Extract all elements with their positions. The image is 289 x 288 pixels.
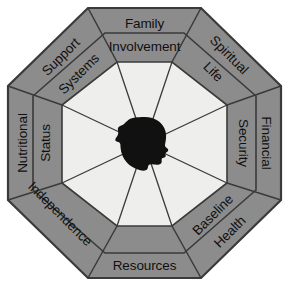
octagon-graphic <box>0 0 289 288</box>
octagon-diagram: Family Involvement Spiritual Life Financ… <box>0 0 289 288</box>
